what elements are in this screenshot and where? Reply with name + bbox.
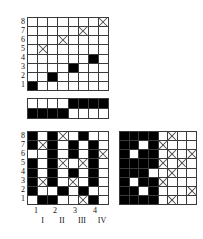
bottom-left-grid-cell: [28, 132, 37, 140]
top-grid-cell: [89, 82, 98, 90]
top-grid-cell: [89, 36, 98, 44]
middle-bar-cell: [79, 109, 88, 118]
top-grid-cell: [38, 36, 47, 44]
top-grid-cell: [28, 27, 37, 35]
top-grid-cell: [28, 36, 37, 44]
middle-bar-cell: [38, 109, 47, 118]
top-grid-cell: [28, 55, 37, 63]
bottom-left-grid-cell: [58, 132, 67, 140]
bottom-right-grid-cell: [187, 178, 196, 186]
x-label-numeric: 4: [85, 207, 105, 215]
x-label-numeric: 2: [45, 207, 65, 215]
top-grid-cell: [79, 18, 88, 26]
bottom-right-grid-cell: [130, 132, 139, 140]
top-grid-cell: [89, 64, 98, 72]
bottom-left-grid-cell: [69, 169, 78, 177]
bottom-right-grid-cell: [168, 132, 177, 140]
x-label-roman: II: [52, 217, 72, 225]
top-grid-cell: [89, 27, 98, 35]
bottom-left-grid-cell: [58, 169, 67, 177]
bottom-right-grid-cell: [178, 132, 187, 140]
top-grid-cell: [69, 36, 78, 44]
top-grid-cell: [79, 55, 88, 63]
bottom-right-grid-cell: [159, 169, 168, 177]
bottom-right-grid-cell: [120, 196, 129, 204]
top-grid-cell: [48, 73, 57, 81]
bottom-left-grid-cell: [99, 132, 108, 140]
top-grid-cell: [38, 27, 47, 35]
bottom-left-grid-cell: [79, 132, 88, 140]
x-axis-numeric-labels: 1 2 3 4: [27, 207, 105, 215]
bottom-left-grid-cell: [79, 196, 88, 204]
bottom-left-grid-cell: [48, 132, 57, 140]
bottom-right-grid-cell: [168, 178, 177, 186]
bottom-left-grid-cell: [89, 132, 98, 140]
bottom-right-grid-cell: [130, 169, 139, 177]
bottom-right-grid-cell: [168, 150, 177, 158]
middle-bar-cell: [38, 99, 47, 108]
top-grid-cell: [58, 82, 67, 90]
bottom-right-grid-cell: [149, 187, 158, 195]
bottom-right-grid-cell: [149, 132, 158, 140]
top-grid-cell: [89, 18, 98, 26]
bottom-left-grid-cell: [99, 150, 108, 158]
bottom-left-grid-cell: [99, 159, 108, 167]
bottom-left-grid-cell: [99, 178, 108, 186]
middle-bar-cell: [89, 109, 98, 118]
bottom-left-grid-cell: [28, 196, 37, 204]
bottom-left-grid-cell: [28, 159, 37, 167]
bottom-right-grid-cell: [159, 141, 168, 149]
bottom-right-grid-cell: [178, 178, 187, 186]
top-grid-cell: [48, 36, 57, 44]
bottom-left-grid-cell: [28, 178, 37, 186]
top-grid-cell: [99, 82, 108, 90]
bottom-right-grid-cell: [168, 196, 177, 204]
bottom-right-grid-cell: [130, 187, 139, 195]
top-grid-cell: [38, 82, 47, 90]
bottom-right-grid-cell: [178, 196, 187, 204]
middle-bar-cell: [69, 99, 78, 108]
bottom-right-grid-cell: [149, 150, 158, 158]
bottom-left-grid-cell: [38, 178, 47, 186]
bottom-right-grid-cell: [149, 169, 158, 177]
bottom-left-grid-cell: [89, 159, 98, 167]
bottom-right-grid-cell: [120, 159, 129, 167]
bottom-right-grid-cell: [187, 132, 196, 140]
top-grid-cell: [99, 18, 108, 26]
top-grid-cell: [58, 73, 67, 81]
top-grid-cell: [99, 36, 108, 44]
middle-bar-cell: [58, 99, 67, 108]
bottom-right-grid-cell: [130, 141, 139, 149]
row-label: 1: [21, 81, 25, 90]
middle-bar-cell: [99, 99, 108, 108]
bottom-right-grid: [119, 131, 197, 205]
top-grid-cell: [99, 73, 108, 81]
top-grid-cell: [28, 82, 37, 90]
top-grid-cell: [69, 45, 78, 53]
bottom-right-grid-cell: [139, 159, 148, 167]
bottom-right-grid-cell: [139, 187, 148, 195]
top-grid-cell: [79, 36, 88, 44]
bottom-right-grid-cell: [130, 150, 139, 158]
bottom-left-grid-cell: [69, 150, 78, 158]
bottom-left-grid-row-labels: 8 7 6 5 4 3 2 1: [14, 132, 25, 204]
x-axis-roman-labels: I II III IV: [33, 217, 112, 225]
top-grid-cell: [69, 73, 78, 81]
top-grid-cell: [38, 73, 47, 81]
bottom-right-grid-cell: [187, 169, 196, 177]
bottom-left-grid-cell: [28, 150, 37, 158]
top-grid-cell: [48, 64, 57, 72]
top-grid-cell: [48, 27, 57, 35]
bottom-right-grid-cell: [187, 150, 196, 158]
x-label-numeric: 1: [27, 207, 45, 215]
bottom-right-grid-cell: [178, 150, 187, 158]
top-grid-cell: [69, 18, 78, 26]
bottom-left-grid-cell: [48, 178, 57, 186]
top-grid-cell: [48, 55, 57, 63]
bottom-right-grid-cell: [159, 187, 168, 195]
middle-bar-cell: [89, 99, 98, 108]
top-grid-cell: [58, 27, 67, 35]
bottom-right-grid-cell: [139, 169, 148, 177]
bottom-left-grid-cell: [38, 141, 47, 149]
bottom-left-grid-cell: [79, 169, 88, 177]
